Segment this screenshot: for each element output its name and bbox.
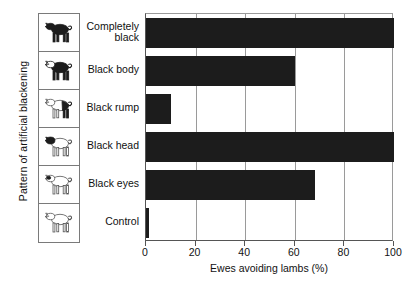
category-label-column: Completely black Black body Black rump B… <box>82 13 142 241</box>
category-label: Black body <box>82 51 142 89</box>
category-label: Black rump <box>82 89 142 127</box>
bar-black-rump <box>146 94 171 124</box>
x-axis-tick-label: 100 <box>373 246 413 258</box>
sheep-icon-column <box>38 13 80 243</box>
sheep-black-rump-icon <box>43 96 75 122</box>
bar-row <box>146 166 392 204</box>
sheep-black-body-icon-cell <box>39 52 79 90</box>
bar-row <box>146 204 392 242</box>
x-axis-tick-label: 0 <box>125 246 165 258</box>
sheep-black-eyes-icon <box>43 172 75 198</box>
bar-black-head <box>146 132 394 162</box>
plot-area <box>145 13 393 241</box>
sheep-control-icon <box>43 210 75 236</box>
bar-black-body <box>146 56 295 86</box>
bar-row <box>146 128 392 166</box>
sheep-black-head-icon-cell <box>39 128 79 166</box>
bar-black-eyes <box>146 170 315 200</box>
x-axis-tick-label: 60 <box>274 246 314 258</box>
sheep-black-head-icon <box>43 134 75 160</box>
sheep-black-eyes-icon-cell <box>39 166 79 204</box>
bar-series <box>146 14 392 240</box>
category-label: Black head <box>82 127 142 165</box>
bar-row <box>146 90 392 128</box>
bar-control <box>146 208 149 238</box>
sheep-completely-black-icon-cell <box>39 14 79 52</box>
bar-completely-black <box>146 18 394 48</box>
category-label: Completely black <box>82 13 142 51</box>
category-label: Control <box>82 203 142 241</box>
x-axis-title: Ewes avoiding lambs (%) <box>145 262 393 274</box>
category-label: Black eyes <box>82 165 142 203</box>
bar-row <box>146 52 392 90</box>
y-axis-title: Pattern of artificial blackening <box>17 23 29 239</box>
x-axis-tick-label: 80 <box>323 246 363 258</box>
sheep-black-rump-icon-cell <box>39 90 79 128</box>
x-axis-tick-label: 20 <box>175 246 215 258</box>
sheep-control-icon-cell <box>39 204 79 242</box>
sheep-black-body-icon <box>43 58 75 84</box>
x-axis-tick-label: 40 <box>224 246 264 258</box>
bar-row <box>146 14 392 52</box>
sheep-completely-black-icon <box>43 20 75 46</box>
